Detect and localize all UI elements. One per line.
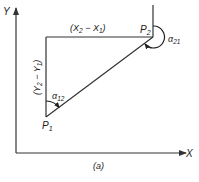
point-p2-label: P2 bbox=[140, 24, 151, 36]
x-axis-label: X bbox=[185, 148, 193, 159]
bearing-diagram: Y X (X2 − X1) (Y2 − Y1) P1 P2 α12 α21 (a… bbox=[0, 0, 199, 182]
figure-caption: (a) bbox=[93, 161, 104, 171]
delta-x-label: (X2 − X1) bbox=[70, 23, 106, 34]
angle-alpha12-label: α12 bbox=[52, 91, 65, 102]
point-p1-label: P1 bbox=[42, 120, 53, 132]
y-axis-label: Y bbox=[3, 6, 11, 17]
hypotenuse bbox=[46, 37, 153, 117]
angle-alpha21-label: α21 bbox=[168, 34, 181, 45]
delta-y-label: (Y2 − Y1) bbox=[32, 60, 43, 95]
